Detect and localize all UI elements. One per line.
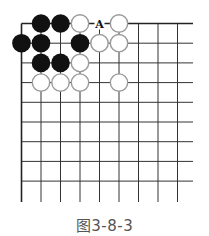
white-stone bbox=[32, 74, 49, 91]
black-stone bbox=[12, 34, 31, 53]
go-board: A bbox=[0, 0, 209, 210]
white-stone bbox=[71, 54, 88, 71]
white-stone bbox=[71, 15, 88, 32]
black-stone bbox=[51, 14, 70, 33]
white-stone bbox=[110, 15, 127, 32]
white-stone bbox=[52, 74, 69, 91]
board-grid bbox=[22, 24, 194, 203]
black-stone bbox=[51, 54, 70, 73]
go-board-diagram: A bbox=[0, 0, 209, 210]
black-stone bbox=[32, 34, 51, 53]
white-stone bbox=[110, 35, 127, 52]
white-stone bbox=[91, 35, 108, 52]
white-stone bbox=[110, 74, 127, 91]
black-stone bbox=[32, 54, 51, 73]
point-label-a: A bbox=[94, 18, 104, 31]
white-stone bbox=[71, 74, 88, 91]
stones-layer bbox=[12, 14, 128, 91]
black-stone bbox=[32, 14, 51, 33]
black-stone bbox=[71, 34, 90, 53]
labels-layer: A bbox=[94, 18, 104, 31]
figure-caption: 图3-8-3 bbox=[0, 214, 209, 235]
